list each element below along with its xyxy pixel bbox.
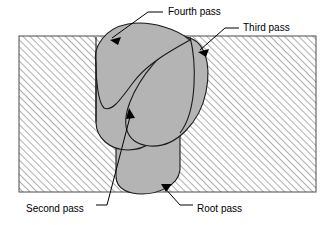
label-fourth-pass: Fourth pass xyxy=(168,6,221,17)
weld-cross-section-figure: Fourth pass Third pass Second pass Root … xyxy=(0,0,333,225)
label-third-pass: Third pass xyxy=(243,22,290,33)
label-second-pass: Second pass xyxy=(26,203,84,214)
label-root-pass: Root pass xyxy=(197,203,242,214)
